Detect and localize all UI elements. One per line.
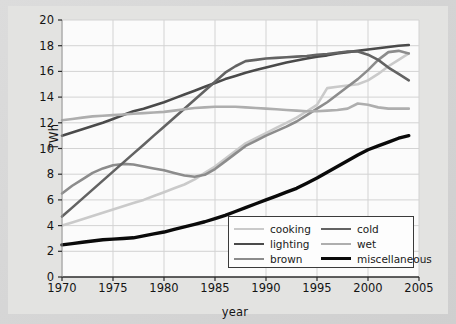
legend-swatch-cooking: [234, 228, 264, 230]
x-tick-label: 2000: [346, 281, 390, 295]
y-tick-label: 20: [28, 15, 54, 25]
x-tick-label: 2005: [397, 281, 441, 295]
chart-legend: cooking cold lighting wet brown: [228, 216, 414, 268]
legend-item-cold: cold: [321, 223, 408, 235]
legend-swatch-miscellaneous: [321, 257, 351, 260]
x-tick-label: 1975: [91, 281, 135, 295]
legend-swatch-lighting: [234, 243, 264, 245]
figure-background: TWh year 20181614121086420 1970197519801…: [0, 0, 456, 324]
legend-item-brown: brown: [234, 253, 321, 265]
legend-label-brown: brown: [270, 253, 302, 265]
y-tick-label: 14: [28, 92, 54, 102]
legend-label-miscellaneous: miscellaneous: [357, 253, 432, 265]
legend-swatch-wet: [321, 243, 351, 245]
legend-item-miscellaneous: miscellaneous: [321, 253, 408, 265]
y-tick-label: 12: [28, 118, 54, 128]
x-tick-label: 1970: [40, 281, 84, 295]
y-tick-label: 2: [28, 246, 54, 256]
x-tick-label: 1990: [244, 281, 288, 295]
legend-row: lighting wet: [234, 236, 408, 251]
legend-row: brown miscellaneous: [234, 251, 408, 266]
x-tick-label: 1995: [295, 281, 339, 295]
x-tick-label: 1985: [193, 281, 237, 295]
y-tick-label: 4: [28, 221, 54, 231]
x-tick-label: 1980: [142, 281, 186, 295]
legend-label-cooking: cooking: [270, 223, 311, 235]
y-tick-label: 18: [28, 41, 54, 51]
legend-item-lighting: lighting: [234, 238, 321, 250]
x-axis-label: year: [180, 305, 290, 319]
legend-label-lighting: lighting: [270, 238, 310, 250]
legend-swatch-brown: [234, 258, 264, 260]
y-tick-label: 6: [28, 195, 54, 205]
legend-label-wet: wet: [357, 238, 376, 250]
legend-item-cooking: cooking: [234, 223, 321, 235]
legend-row: cooking cold: [234, 221, 408, 236]
y-tick-label: 10: [28, 144, 54, 154]
line-chart: [0, 0, 456, 324]
y-tick-label: 16: [28, 66, 54, 76]
plot-container: [0, 0, 456, 324]
legend-item-wet: wet: [321, 238, 408, 250]
legend-swatch-cold: [321, 228, 351, 230]
y-tick-label: 8: [28, 169, 54, 179]
legend-label-cold: cold: [357, 223, 379, 235]
